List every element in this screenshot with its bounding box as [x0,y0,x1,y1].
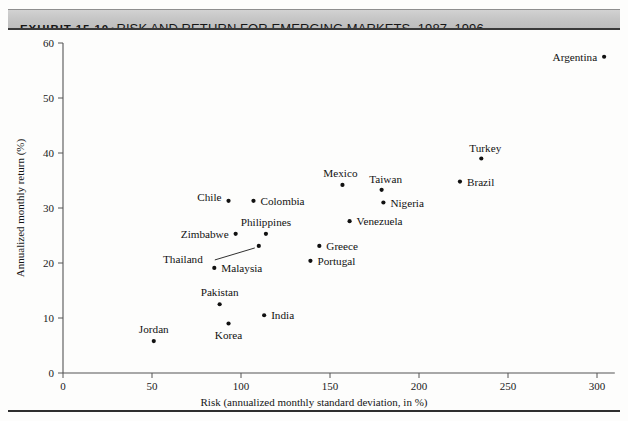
point-label: Colombia [260,195,304,207]
point-marker[interactable] [226,321,230,325]
x-axis-tick-label: 50 [147,380,159,392]
point-label: Thailand [163,253,203,265]
point-marker[interactable] [251,199,255,203]
y-axis-tick-label: 30 [43,202,55,214]
scatter-plot-container: 0102030405060050100150200250300Risk (ann… [0,0,628,421]
point-marker[interactable] [234,232,238,236]
y-axis-tick-label: 20 [43,257,55,269]
point-marker[interactable] [257,244,261,248]
x-axis-tick-label: 250 [500,380,517,392]
point-label: India [271,309,294,321]
point-label: Turkey [469,142,501,154]
point-label: Venezuela [357,215,403,227]
point-marker[interactable] [458,180,462,184]
x-axis-tick-label: 100 [233,380,250,392]
x-axis-title: Risk (annualized monthly standard deviat… [201,396,428,409]
data-point[interactable]: Pakistan [201,286,239,306]
data-point[interactable]: Jordan [139,323,169,343]
x-axis-tick-label: 150 [322,380,339,392]
y-axis-title: Annualized monthly return (%) [14,138,27,277]
axes-group: 0102030405060050100150200250300Risk (ann… [14,37,615,409]
point-marker[interactable] [264,232,268,236]
point-label: Philippines [241,216,291,228]
point-label: Brazil [467,176,494,188]
data-point[interactable]: Greece [317,240,358,252]
footer-rule [8,410,620,412]
data-points-group: ArgentinaTurkeyBrazilTaiwanNigeriaMexico… [139,51,606,343]
point-label: Greece [326,240,358,252]
point-label: Malaysia [221,262,262,274]
point-marker[interactable] [262,313,266,317]
data-point[interactable]: Korea [215,321,242,340]
y-axis-tick-label: 50 [43,92,55,104]
scatter-chart: 0102030405060050100150200250300Risk (ann… [0,0,628,421]
data-point[interactable]: Zimbabwe [181,228,238,240]
data-point[interactable]: Mexico [323,167,358,187]
data-point[interactable]: Argentina [553,51,607,63]
data-point[interactable]: Chile [197,191,230,203]
point-marker[interactable] [340,183,344,187]
point-label: Jordan [139,323,169,335]
point-label: Portugal [317,255,355,267]
x-axis-tick-label: 0 [60,380,66,392]
data-point[interactable]: Philippines [241,216,291,236]
point-label: Korea [215,329,242,341]
point-label: Chile [197,191,221,203]
x-axis-tick-label: 200 [411,380,428,392]
point-marker[interactable] [212,266,216,270]
data-point[interactable]: Nigeria [381,197,424,209]
point-label: Pakistan [201,286,239,298]
y-axis-tick-label: 40 [43,147,55,159]
point-label: Nigeria [390,197,424,209]
point-marker[interactable] [152,339,156,343]
point-marker[interactable] [602,55,606,59]
point-marker[interactable] [218,302,222,306]
exhibit-page: EXHIBIT 15.10•RISK AND RETURN FOR EMERGI… [0,0,628,421]
data-point[interactable]: Taiwan [369,173,402,192]
y-axis-tick-label: 60 [43,37,55,49]
point-marker[interactable] [381,200,385,204]
data-point[interactable]: Brazil [458,176,494,188]
point-label: Mexico [323,167,358,179]
point-label: Taiwan [369,173,402,185]
point-marker[interactable] [479,156,483,160]
point-marker[interactable] [380,188,384,192]
data-point[interactable]: India [262,309,294,321]
data-point[interactable]: Malaysia [212,262,262,274]
data-point[interactable]: Portugal [308,255,355,267]
point-label: Zimbabwe [181,228,229,240]
y-axis-tick-label: 10 [43,312,55,324]
x-axis-tick-label: 300 [589,380,606,392]
data-point[interactable]: Venezuela [347,215,402,227]
y-axis-tick-label: 0 [49,367,55,379]
point-marker[interactable] [347,219,351,223]
point-marker[interactable] [226,199,230,203]
data-point[interactable]: Colombia [251,195,304,207]
leader-line [215,248,255,260]
data-point[interactable]: Turkey [469,142,501,161]
point-marker[interactable] [317,244,321,248]
point-marker[interactable] [308,259,312,263]
point-label: Argentina [553,51,598,63]
